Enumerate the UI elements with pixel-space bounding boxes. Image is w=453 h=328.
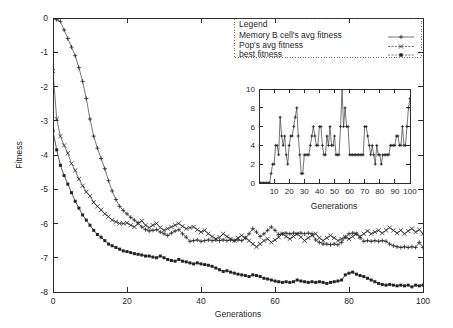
data-point-marker-filled-square [126, 250, 129, 253]
data-point-marker-filled-square [399, 284, 402, 287]
inset-x-tick-label: 20 [285, 187, 294, 196]
data-point-marker-filled-square [92, 229, 95, 232]
inset-x-tick-label: 10 [270, 187, 279, 196]
data-point-marker-filled-square [229, 271, 232, 274]
data-point-marker-filled-square [129, 251, 132, 254]
data-point-marker-filled-square [414, 284, 417, 287]
data-point-marker-filled-square [388, 283, 391, 286]
data-point-marker-filled-square [85, 219, 88, 222]
inset-x-axis-title: Generations [311, 201, 357, 211]
data-point-marker-filled-square [181, 260, 184, 263]
data-point-marker-filled-square [148, 255, 151, 258]
data-point-marker-filled-square [344, 273, 347, 276]
data-point-marker-filled-square [340, 279, 343, 282]
data-point-marker-filled-square [422, 284, 425, 287]
main-x-tick-label: 40 [196, 296, 206, 306]
data-point-marker-filled-square [399, 53, 402, 56]
data-point-marker-filled-square [211, 265, 214, 268]
inset-y-tick-label: 6 [251, 123, 256, 132]
data-point-marker-filled-square [303, 280, 306, 283]
inset-y-tick-label: 4 [251, 141, 256, 150]
data-point-marker-filled-square [259, 275, 262, 278]
chart-canvas: 0-1-2-3-4-5-6-7-8 020406080100 Fitness G… [0, 0, 453, 328]
data-point-marker-filled-square [188, 261, 191, 264]
data-point-marker-filled-square [351, 271, 354, 274]
data-point-marker-filled-square [370, 279, 373, 282]
data-point-marker-filled-square [288, 281, 291, 284]
data-point-marker-filled-square [103, 239, 106, 242]
main-y-tick-label: 0 [43, 13, 48, 23]
data-point-marker-filled-square [107, 243, 110, 246]
data-point-marker-filled-square [140, 254, 143, 257]
data-point-marker-filled-square [270, 279, 273, 282]
main-y-tick-label: -1 [40, 47, 48, 57]
data-point-marker-filled-square [100, 236, 103, 239]
inset-y-tick-label: 2 [251, 160, 256, 169]
data-point-marker-filled-square [133, 252, 136, 255]
data-point-marker-filled-square [144, 255, 147, 258]
data-point-marker-filled-square [151, 256, 154, 259]
data-point-marker-filled-square [392, 284, 395, 287]
inset-y-tick-label: 0 [251, 179, 256, 188]
data-point-marker-filled-square [222, 270, 225, 273]
data-point-marker-filled-square [55, 148, 58, 151]
main-y-tick-label: -8 [40, 287, 48, 297]
data-point-marker-filled-square [111, 244, 114, 247]
data-point-marker-filled-square [329, 281, 332, 284]
data-point-marker-filled-square [396, 284, 399, 287]
data-point-marker-filled-square [70, 191, 73, 194]
main-x-tick-label: 0 [51, 296, 56, 306]
data-point-marker-filled-square [285, 280, 288, 283]
data-point-marker-filled-square [266, 277, 269, 280]
main-x-tick-label: 80 [344, 296, 354, 306]
data-point-marker-filled-square [381, 283, 384, 286]
main-y-tick-label: -2 [40, 82, 48, 92]
data-point-marker-filled-square [255, 274, 258, 277]
data-point-marker-filled-square [59, 164, 62, 167]
data-point-marker-filled-square [137, 253, 140, 256]
data-point-marker-filled-square [63, 174, 66, 177]
data-point-marker-filled-square [166, 258, 169, 261]
data-point-marker-filled-square [177, 258, 180, 261]
data-point-marker-filled-square [274, 280, 277, 283]
main-x-tick-label: 20 [122, 296, 132, 306]
inset-x-tick-label: 90 [390, 187, 399, 196]
data-point-marker-filled-square [174, 260, 177, 263]
data-point-marker-filled-square [66, 183, 69, 186]
data-point-marker-filled-square [185, 260, 188, 263]
inset-axes-group: 0246810 102030405060708090100 [246, 85, 417, 196]
main-y-tick-label: -4 [40, 150, 48, 160]
inset-x-tick-label: 50 [330, 187, 339, 196]
data-point-marker-filled-square [244, 274, 247, 277]
main-x-tick-label: 100 [416, 296, 430, 306]
data-point-marker-filled-square [322, 281, 325, 284]
data-point-marker-filled-square [214, 267, 217, 270]
inset-x-tick-label: 40 [315, 187, 324, 196]
data-point-marker-filled-square [314, 281, 317, 284]
data-point-marker-filled-square [362, 275, 365, 278]
data-point-marker-filled-square [318, 280, 321, 283]
inset-x-tick-label: 30 [300, 187, 309, 196]
data-point-marker-filled-square [200, 262, 203, 265]
data-point-marker-filled-square [307, 281, 310, 284]
data-point-marker-filled-square [251, 273, 254, 276]
data-point-marker-filled-square [233, 272, 236, 275]
data-point-marker-filled-square [373, 280, 376, 283]
data-point-marker-filled-square [385, 284, 388, 287]
data-point-marker-filled-square [114, 246, 117, 249]
data-point-marker-filled-square [192, 262, 195, 265]
data-point-marker-filled-square [225, 269, 228, 272]
data-point-marker-filled-square [159, 255, 162, 258]
data-point-marker-filled-square [333, 280, 336, 283]
data-point-marker-filled-square [277, 280, 280, 283]
data-point-marker-filled-square [407, 284, 410, 287]
data-point-marker-filled-square [418, 284, 421, 287]
inset-x-tick-label: 80 [375, 187, 384, 196]
data-point-marker-filled-square [296, 279, 299, 282]
inset-y-tick-label: 8 [251, 104, 256, 113]
data-point-marker-filled-square [355, 273, 358, 276]
legend-entry-label-2: best fitness [239, 49, 282, 59]
data-point-marker-filled-square [262, 277, 265, 280]
data-point-marker-filled-square [410, 285, 413, 288]
data-point-marker-filled-square [281, 281, 284, 284]
